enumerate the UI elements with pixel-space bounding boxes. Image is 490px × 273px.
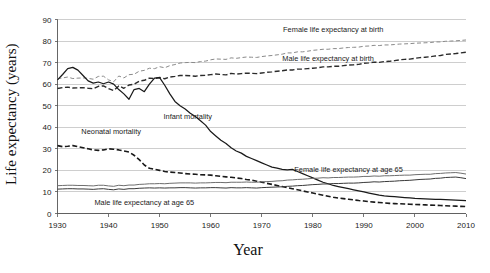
y-tick-label-50: 50 xyxy=(43,102,52,111)
y-tick-label-20: 20 xyxy=(43,166,52,175)
annotation-female-life-expectancy-at-birth: Female life expectancy at birth xyxy=(283,25,383,34)
y-tick-label-10: 10 xyxy=(43,188,52,197)
x-tick-label-1950: 1950 xyxy=(151,221,169,230)
y-tick-label-30: 30 xyxy=(43,145,52,154)
x-tick-label-1970: 1970 xyxy=(253,221,271,230)
chart-figure: 0102030405060708090193019401950196019701… xyxy=(0,0,490,273)
y-tick-label-70: 70 xyxy=(43,59,52,68)
y-tick-label-40: 40 xyxy=(43,123,52,132)
x-tick-label-2000: 2000 xyxy=(406,221,424,230)
x-tick-label-1930: 1930 xyxy=(49,221,67,230)
y-tick-label-0: 0 xyxy=(47,210,52,219)
x-tick-label-1940: 1940 xyxy=(100,221,118,230)
annotation-neonatal-mortality: Neonatal mortality xyxy=(81,127,141,136)
x-tick-label-1980: 1980 xyxy=(304,221,322,230)
x-axis-title: Year xyxy=(233,241,263,258)
annotation-male-life-expectancy-at-age-65: Male life expectancy at age 65 xyxy=(94,198,194,207)
y-axis-title: Life expectancy (years) xyxy=(3,43,20,185)
annotation-female-life-expectancy-at-age-65: Female life expectancy at age 65 xyxy=(294,165,402,174)
x-tick-label-1990: 1990 xyxy=(355,221,373,230)
y-tick-label-60: 60 xyxy=(43,80,52,89)
y-tick-label-90: 90 xyxy=(43,16,52,25)
y-tick-label-80: 80 xyxy=(43,37,52,46)
annotation-infant-mortality: Infant mortality xyxy=(163,112,212,121)
x-tick-label-2010: 2010 xyxy=(457,221,475,230)
x-tick-label-1960: 1960 xyxy=(202,221,220,230)
life-expectancy-line-chart: 0102030405060708090193019401950196019701… xyxy=(0,0,490,273)
annotation-male-life-expectancy-at-birth: Male life expectancy at birth xyxy=(282,54,374,63)
